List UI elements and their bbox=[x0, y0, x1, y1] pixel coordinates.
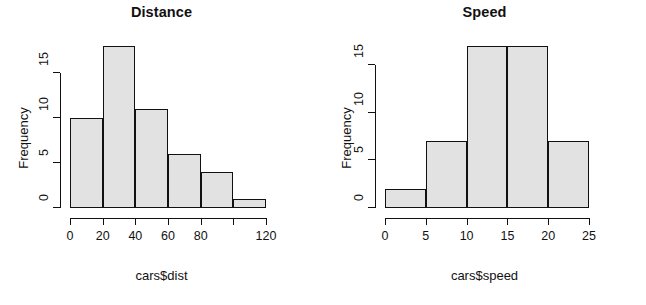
panel-title-speed: Speed bbox=[323, 4, 646, 20]
x-tick bbox=[385, 218, 386, 225]
x-tick bbox=[201, 218, 202, 225]
y-tick-label: 0 bbox=[44, 198, 58, 205]
x-tick-label: 120 bbox=[256, 229, 277, 243]
bar bbox=[233, 199, 266, 208]
y-axis-line-distance bbox=[60, 73, 61, 208]
x-tick-label: 0 bbox=[382, 229, 389, 243]
x-tick-label: 80 bbox=[194, 229, 208, 243]
y-tick bbox=[368, 159, 375, 160]
panel-title-distance: Distance bbox=[0, 4, 323, 20]
y-axis-line-speed bbox=[375, 65, 376, 208]
y-tick-label: 10 bbox=[359, 99, 373, 113]
bar bbox=[507, 46, 548, 208]
x-tick-label: 20 bbox=[541, 229, 555, 243]
bar bbox=[135, 109, 168, 208]
bar bbox=[548, 141, 589, 208]
x-axis-label-distance: cars$dist bbox=[0, 268, 323, 283]
x-tick bbox=[168, 218, 169, 225]
x-tick bbox=[70, 218, 71, 225]
y-tick-label: 0 bbox=[359, 198, 373, 205]
x-tick-label: 40 bbox=[128, 229, 142, 243]
x-tick-label: 25 bbox=[582, 229, 596, 243]
y-tick-label: 15 bbox=[44, 59, 58, 73]
x-tick bbox=[589, 218, 590, 225]
x-tick bbox=[548, 218, 549, 225]
histogram-figure: Distance Frequency 051015020406080120 ca… bbox=[0, 0, 646, 305]
y-tick bbox=[368, 207, 375, 208]
bar bbox=[467, 46, 508, 208]
plot-area-speed: 0510150510152025 bbox=[385, 46, 589, 208]
x-tick bbox=[103, 218, 104, 225]
x-tick-label: 10 bbox=[460, 229, 474, 243]
bar bbox=[385, 189, 426, 208]
x-axis-line-speed bbox=[385, 218, 589, 219]
x-tick-label: 20 bbox=[96, 229, 110, 243]
bar bbox=[70, 118, 103, 208]
x-tick bbox=[467, 218, 468, 225]
y-axis-label-distance: Frequency bbox=[16, 0, 31, 78]
bar bbox=[201, 172, 234, 208]
x-tick-label: 60 bbox=[161, 229, 175, 243]
x-tick bbox=[135, 218, 136, 225]
x-tick bbox=[426, 218, 427, 225]
y-tick-label: 5 bbox=[44, 153, 58, 160]
y-tick-label: 5 bbox=[359, 150, 373, 157]
y-tick-label: 10 bbox=[44, 104, 58, 118]
panel-speed: Speed Frequency 0510150510152025 cars$sp… bbox=[323, 0, 646, 305]
bar bbox=[103, 46, 136, 208]
x-axis-label-speed: cars$speed bbox=[323, 268, 646, 283]
bars-distance bbox=[70, 46, 266, 208]
y-tick bbox=[53, 162, 60, 163]
x-tick-label: 5 bbox=[422, 229, 429, 243]
y-axis-label-speed: Frequency bbox=[339, 0, 354, 78]
plot-area-distance: 051015020406080120 bbox=[70, 46, 266, 208]
x-tick bbox=[507, 218, 508, 225]
y-tick bbox=[53, 207, 60, 208]
x-tick bbox=[266, 218, 267, 225]
bar bbox=[426, 141, 467, 208]
panel-distance: Distance Frequency 051015020406080120 ca… bbox=[0, 0, 323, 305]
y-tick-label: 15 bbox=[359, 51, 373, 65]
x-tick-label: 0 bbox=[67, 229, 74, 243]
bar bbox=[168, 154, 201, 208]
x-tick-label: 15 bbox=[500, 229, 514, 243]
x-tick bbox=[233, 218, 234, 225]
bars-speed bbox=[385, 46, 589, 208]
